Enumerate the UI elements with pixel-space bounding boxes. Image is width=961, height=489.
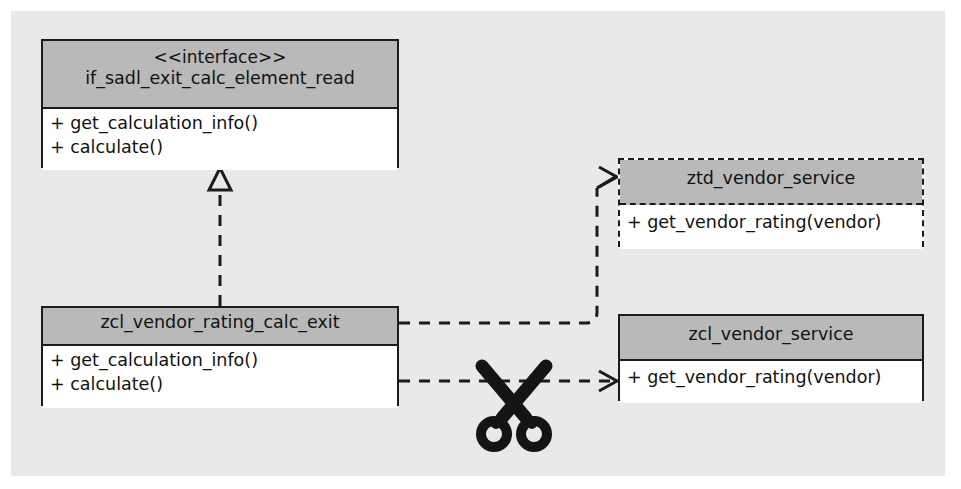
class-name-label: zcl_vendor_service [626, 324, 916, 345]
class-box-members: + get_calculation_info() + calculate() [43, 109, 397, 170]
class-member: + calculate() [50, 136, 397, 160]
class-box-members: + get_vendor_rating(vendor) [620, 205, 922, 249]
class-name-label: zcl_vendor_rating_calc_exit [49, 312, 391, 333]
class-name-label: ztd_vendor_service [626, 168, 916, 189]
class-box-exit[interactable]: zcl_vendor_rating_calc_exit + get_calcul… [41, 306, 399, 406]
class-box-header: zcl_vendor_rating_calc_exit [43, 308, 397, 346]
class-member: + get_vendor_rating(vendor) [627, 366, 922, 390]
scissors-icon [466, 358, 562, 454]
class-member: + get_calculation_info() [50, 349, 397, 373]
class-member: + calculate() [50, 373, 397, 397]
uml-diagram-root: ztd_vendor_service (elbow with rounded c… [0, 0, 961, 489]
class-box-header: zcl_vendor_service [620, 316, 922, 361]
stereotype-label: <<interface>> [49, 47, 391, 68]
class-box-members: + get_calculation_info() + calculate() [43, 346, 397, 408]
class-member: + get_calculation_info() [50, 112, 397, 136]
class-box-members: + get_vendor_rating(vendor) [620, 361, 922, 403]
class-box-interface[interactable]: <<interface>> if_sadl_exit_calc_element_… [41, 39, 399, 168]
class-member: + get_vendor_rating(vendor) [627, 211, 922, 235]
class-box-ztd[interactable]: ztd_vendor_service + get_vendor_rating(v… [618, 158, 924, 247]
class-name-label: if_sadl_exit_calc_element_read [49, 68, 391, 89]
class-box-zcl[interactable]: zcl_vendor_service + get_vendor_rating(v… [618, 314, 924, 401]
class-box-header: ztd_vendor_service [620, 160, 922, 205]
class-box-header: <<interface>> if_sadl_exit_calc_element_… [43, 41, 397, 109]
